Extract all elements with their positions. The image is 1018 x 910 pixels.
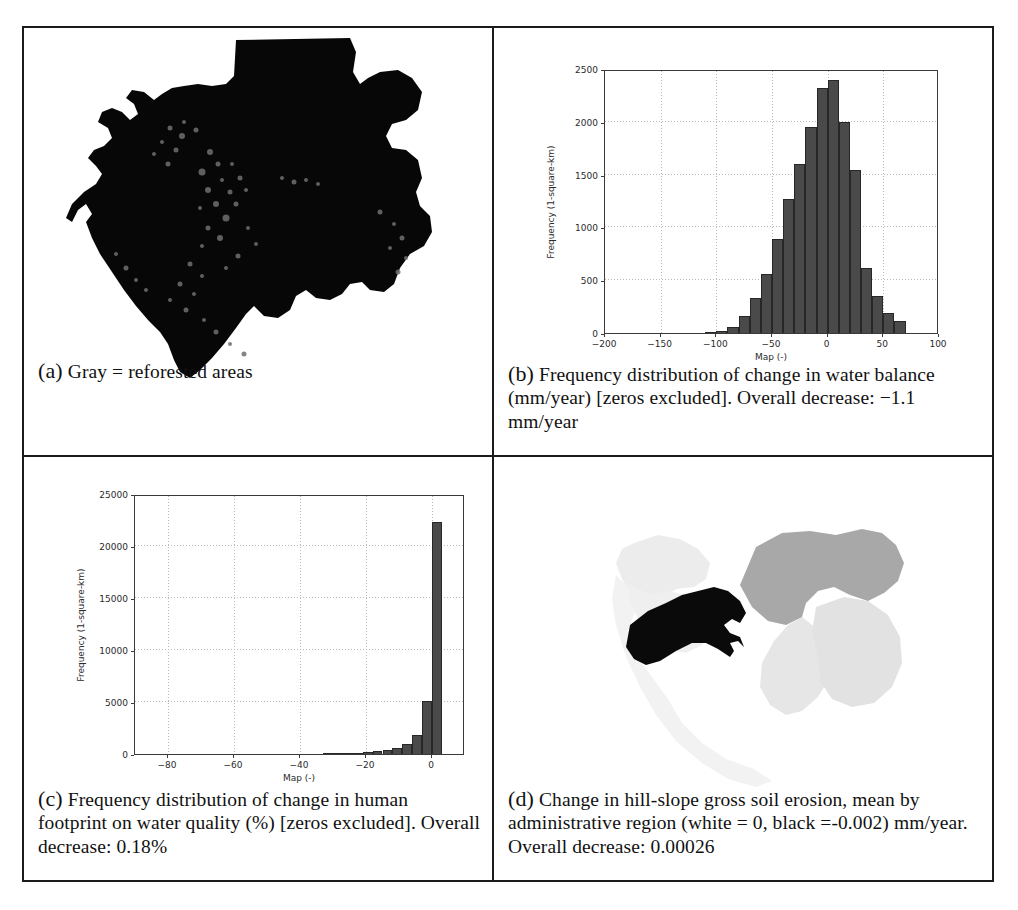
histogram-bar (392, 748, 402, 754)
histogram-bar (761, 274, 772, 333)
histogram-bar (353, 753, 363, 754)
histogram-bar (861, 268, 872, 333)
histogram-bar (343, 753, 353, 754)
y-tick-mark (601, 334, 604, 335)
gridline-horizontal (135, 597, 463, 598)
plot-area-b (604, 70, 938, 334)
y-tick-mark (131, 755, 134, 756)
x-tick-mark (771, 334, 772, 337)
x-tick-mark (604, 334, 605, 337)
y-axis-label: Frequency (1-square-km) (546, 70, 556, 334)
y-tick-label: 20000 (88, 542, 128, 552)
histogram-bar (373, 751, 383, 754)
y-tick-label: 25000 (88, 490, 128, 500)
histogram-bar (432, 522, 442, 754)
gridline-horizontal (135, 649, 463, 650)
caption-a: (a) Gray = reforested areas (38, 359, 482, 384)
y-tick-mark (131, 495, 134, 496)
histogram-bar (817, 88, 828, 333)
y-tick-mark (601, 70, 604, 71)
histogram-bar (772, 239, 783, 333)
y-tick-label: 1000 (558, 223, 598, 233)
x-tick-mark (233, 755, 234, 758)
histogram-bar (383, 750, 393, 754)
caption-a-tag: (a) (38, 358, 63, 383)
y-tick-mark (131, 651, 134, 652)
gridline-horizontal (605, 174, 937, 175)
chart-water-balance: −200−150−100−500501000500100015002000250… (494, 28, 994, 378)
histogram-bar (850, 170, 861, 333)
panel-a: (a) Gray = reforested areas (24, 28, 492, 455)
histogram-bar (739, 316, 750, 333)
reforested-areas-map (50, 32, 470, 382)
histogram-bar (750, 298, 761, 333)
x-tick-label: −80 (158, 760, 177, 770)
y-tick-label: 10000 (88, 646, 128, 656)
y-tick-label: 0 (558, 329, 598, 339)
gridline-vertical (716, 71, 717, 333)
y-axis-label: Frequency (1-square-km) (76, 495, 86, 755)
y-tick-label: 15000 (88, 594, 128, 604)
histogram-bar (894, 321, 905, 333)
x-tick-label: 0 (428, 760, 434, 770)
gridline-vertical (234, 496, 235, 754)
histogram-bar (323, 753, 333, 754)
histogram-bar (363, 752, 373, 754)
x-tick-label: −100 (703, 339, 728, 349)
gabon-admin-regions-svg (606, 491, 986, 791)
gridline-vertical (168, 496, 169, 754)
histogram-bar (839, 122, 850, 333)
caption-b-tag: (b) (508, 361, 534, 386)
x-tick-label: 50 (877, 339, 888, 349)
region-haut-ogooue (812, 597, 902, 707)
y-tick-label: 2500 (558, 65, 598, 75)
x-tick-mark (938, 334, 939, 337)
y-tick-label: 0 (88, 750, 128, 760)
x-tick-mark (167, 755, 168, 758)
histogram-bar (402, 744, 412, 754)
plot-area-c (134, 495, 464, 755)
gridline-horizontal (135, 701, 463, 702)
x-tick-label: −200 (592, 339, 617, 349)
gridline-vertical (300, 496, 301, 754)
gridline-horizontal (605, 121, 937, 122)
x-tick-label: 0 (824, 339, 830, 349)
caption-d: (d) Change in hill-slope gross soil eros… (508, 787, 984, 859)
histogram-bar (872, 296, 883, 333)
x-axis-label: Map (-) (604, 352, 938, 362)
y-tick-label: 1500 (558, 171, 598, 181)
caption-d-text: Change in hill-slope gross soil erosion,… (508, 789, 968, 857)
x-tick-label: −150 (647, 339, 672, 349)
caption-c-text: Frequency distribution of change in huma… (38, 789, 480, 857)
x-tick-mark (827, 334, 828, 337)
x-tick-label: 100 (929, 339, 946, 349)
histogram-bar (828, 80, 839, 333)
y-tick-mark (131, 599, 134, 600)
histogram-bar (422, 701, 432, 754)
x-tick-mark (882, 334, 883, 337)
y-tick-mark (601, 228, 604, 229)
panel-c: −80−60−40−2000500010000150002000025000Ma… (24, 457, 492, 880)
x-tick-label: −60 (224, 760, 243, 770)
x-tick-mark (299, 755, 300, 758)
histogram-bar (883, 313, 894, 333)
caption-c: (c) Frequency distribution of change in … (38, 787, 482, 859)
histogram-bar (783, 199, 794, 333)
panel-d: (d) Change in hill-slope gross soil eros… (494, 457, 994, 880)
histogram-bar (805, 127, 816, 333)
gabon-country-shape (66, 38, 432, 378)
histogram-bar (794, 164, 805, 333)
x-tick-mark (715, 334, 716, 337)
panel-b: −200−150−100−500501000500100015002000250… (494, 28, 994, 455)
y-tick-label: 5000 (88, 698, 128, 708)
chart-human-footprint: −80−60−40−2000500010000150002000025000Ma… (24, 465, 492, 795)
x-tick-mark (365, 755, 366, 758)
y-tick-mark (131, 547, 134, 548)
gridline-horizontal (135, 545, 463, 546)
y-tick-mark (131, 703, 134, 704)
caption-a-text: Gray = reforested areas (68, 361, 253, 382)
x-tick-mark (431, 755, 432, 758)
caption-c-tag: (c) (38, 786, 63, 811)
x-tick-label: −50 (762, 339, 781, 349)
y-tick-label: 2000 (558, 118, 598, 128)
